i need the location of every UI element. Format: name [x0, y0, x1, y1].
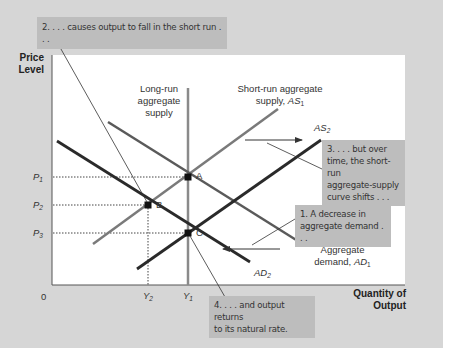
ad1-label: Aggregate demand, AD1 — [305, 244, 380, 271]
callout-4-leader — [190, 236, 225, 297]
origin-label: 0 — [41, 291, 46, 303]
x-axis-label-line1: Quantity of — [350, 288, 406, 300]
callout-step-2: 2. . . . causes output to fall in the sh… — [37, 17, 227, 49]
point-b-label: B — [156, 199, 162, 211]
callout-step-3: 3. . . . but over time, the short-run ag… — [322, 140, 405, 206]
lras-label: Long-run aggregate supply — [130, 83, 188, 119]
callout-step-1: 1. A decrease in aggregate demand . . . — [295, 205, 391, 247]
callout-2-leader — [57, 42, 147, 202]
guide-lines — [53, 177, 188, 285]
tick-y2: Y2 — [143, 290, 153, 305]
point-a-label: A — [196, 170, 202, 182]
ad2-label: AD2 — [254, 267, 271, 282]
point-c-label: C — [196, 227, 203, 239]
point-c-marker — [185, 230, 192, 237]
tick-y1: Y1 — [183, 290, 193, 305]
tick-p3: P3 — [33, 227, 43, 242]
as2-label: AS2 — [314, 122, 330, 137]
y-axis-label-line2: Level — [4, 64, 44, 76]
point-a-marker — [185, 174, 192, 181]
x-axis-label: Quantity of Output — [350, 288, 406, 312]
point-b-marker — [145, 202, 152, 209]
callout-3-leader — [267, 143, 322, 169]
y-axis-label: Price Level — [4, 52, 44, 76]
callout-1-leader — [252, 219, 295, 245]
x-axis-label-line2: Output — [350, 300, 406, 312]
ad2-curve — [57, 141, 250, 262]
y-axis-label-line1: Price — [4, 52, 44, 64]
as1-label: Short-run aggregate supply, AS1 — [230, 83, 330, 110]
callout-step-4: 4. . . . and output returns to its natur… — [209, 296, 315, 338]
tick-p1: P1 — [33, 171, 43, 186]
tick-p2: P2 — [33, 199, 43, 214]
